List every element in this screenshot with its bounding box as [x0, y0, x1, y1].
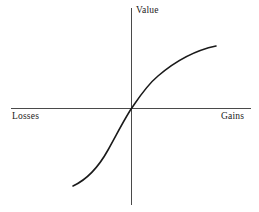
axis-label-value: Value [136, 6, 159, 16]
value-function-curve [73, 46, 216, 186]
value-function-plot [0, 0, 259, 212]
axis-label-gains: Gains [221, 112, 244, 122]
axis-label-losses: Losses [12, 112, 39, 122]
value-function-figure: Value Losses Gains [0, 0, 259, 212]
